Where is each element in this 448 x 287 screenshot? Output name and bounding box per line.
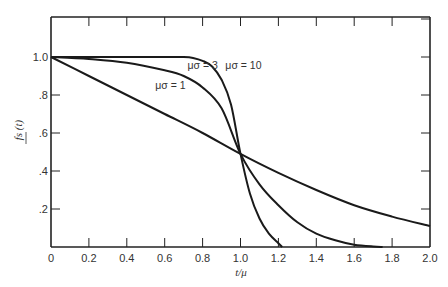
x-tick-label: 2.0 <box>422 252 437 264</box>
x-axis-title: t/μ <box>235 266 247 278</box>
tick-labels: 00.20.40.60.81.01.21.41.61.82.0.2.4.6.81… <box>33 51 438 264</box>
x-tick-label: 0.8 <box>195 252 210 264</box>
x-tick-label: 1.6 <box>347 252 362 264</box>
x-tick-label: 1.4 <box>309 252 324 264</box>
curve-labels: μσ = 1μσ = 3μσ = 10 <box>155 59 261 91</box>
curve-label: μσ = 1 <box>155 79 185 91</box>
axis-ticks <box>51 17 430 247</box>
curve-series-1 <box>51 57 430 226</box>
y-tick-label: .2 <box>39 203 48 215</box>
curves <box>51 57 430 247</box>
x-tick-label: 0.6 <box>157 252 172 264</box>
curve-label: μσ = 10 <box>225 59 261 71</box>
line-chart: 00.20.40.60.81.01.21.41.61.82.0.2.4.6.81… <box>0 0 448 287</box>
y-tick-label: .8 <box>39 89 48 101</box>
x-tick-label: 0 <box>48 252 54 264</box>
y-tick-label: .4 <box>39 165 48 177</box>
y-tick-label: .6 <box>39 127 48 139</box>
plot-frame <box>51 17 430 247</box>
x-tick-label: 0.4 <box>119 252 134 264</box>
y-axis-title: fs (t) <box>12 119 25 140</box>
x-tick-label: 1.2 <box>271 252 286 264</box>
x-tick-label: 1.8 <box>384 252 399 264</box>
x-tick-label: 0.2 <box>81 252 96 264</box>
y-tick-label: 1.0 <box>33 51 48 63</box>
curve-series-2 <box>51 57 383 247</box>
x-tick-label: 1.0 <box>233 252 248 264</box>
curve-label: μσ = 3 <box>187 59 217 71</box>
